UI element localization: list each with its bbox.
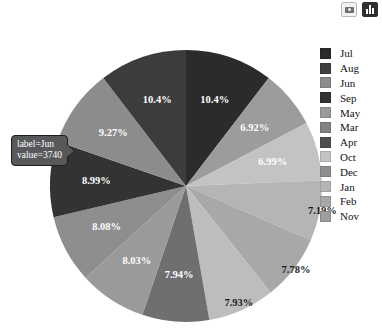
legend-item[interactable]: Apr	[320, 135, 380, 150]
legend-item[interactable]: Nov	[320, 209, 380, 224]
legend-label: Jan	[340, 181, 355, 193]
legend-label: Jun	[340, 77, 355, 89]
pie-slice-label: 9.27%	[99, 127, 128, 138]
chart-toolbar	[341, 2, 378, 17]
legend-label: Jul	[340, 47, 353, 59]
legend-label: Sep	[340, 92, 357, 104]
legend-item[interactable]: Jan	[320, 179, 380, 194]
pie-slice-group	[50, 50, 322, 322]
chart-legend: JulAugJunSepMayMarAprOctDecJanFebNov	[320, 46, 380, 224]
legend-label: Aug	[340, 62, 359, 74]
legend-swatch	[320, 181, 331, 192]
legend-item[interactable]: Mar	[320, 120, 380, 135]
legend-swatch	[320, 122, 331, 133]
legend-label: May	[340, 107, 360, 119]
bar-chart-glyph	[366, 5, 374, 14]
tooltip-value: value=3740	[17, 150, 62, 161]
pie-slice-label: 8.03%	[122, 255, 151, 266]
legend-item[interactable]: Oct	[320, 150, 380, 165]
pie-slice-label: 7.93%	[224, 297, 253, 308]
bar-chart-icon[interactable]	[362, 2, 378, 17]
pie-slice-label: 8.99%	[82, 175, 111, 186]
camera-icon[interactable]	[341, 2, 357, 17]
legend-swatch	[320, 77, 331, 88]
legend-item[interactable]: Feb	[320, 194, 380, 209]
legend-swatch	[320, 48, 331, 59]
legend-item[interactable]: Sep	[320, 90, 380, 105]
pie-slice-label: 6.92%	[240, 122, 269, 133]
pie-tooltip: label=Jun value=3740	[11, 135, 68, 166]
legend-swatch	[320, 63, 331, 74]
legend-swatch	[320, 166, 331, 177]
pie-slice-label: 6.99%	[258, 156, 287, 167]
legend-swatch	[320, 211, 331, 222]
legend-item[interactable]: Jul	[320, 46, 380, 61]
camera-glyph	[345, 7, 354, 13]
pie-slice-label: 10.4%	[143, 94, 172, 105]
legend-label: Oct	[340, 151, 356, 163]
legend-swatch	[320, 107, 331, 118]
tooltip-label: label=Jun	[17, 139, 62, 150]
legend-swatch	[320, 92, 331, 103]
legend-item[interactable]: May	[320, 105, 380, 120]
legend-swatch	[320, 196, 331, 207]
legend-label: Nov	[340, 210, 359, 222]
legend-label: Apr	[340, 136, 357, 148]
pie-chart: 10.4%6.92%6.99%7.19%7.78%7.93%7.94%8.03%…	[0, 28, 310, 328]
pie-svg[interactable]: 10.4%6.92%6.99%7.19%7.78%7.93%7.94%8.03%…	[50, 50, 322, 322]
legend-swatch	[320, 151, 331, 162]
legend-swatch	[320, 137, 331, 148]
pie-slice-label: 8.08%	[92, 221, 121, 232]
pie-slice-label: 7.94%	[165, 269, 194, 280]
tooltip-arrow	[67, 145, 74, 157]
pie-canvas: 10.4%6.92%6.99%7.19%7.78%7.93%7.94%8.03%…	[50, 50, 322, 322]
legend-label: Dec	[340, 166, 358, 178]
legend-label: Mar	[340, 121, 358, 133]
pie-slice-label: 7.78%	[282, 264, 311, 275]
chart-page: 10.4%6.92%6.99%7.19%7.78%7.93%7.94%8.03%…	[0, 0, 382, 329]
pie-slice-label: 10.4%	[200, 94, 229, 105]
legend-item[interactable]: Dec	[320, 164, 380, 179]
legend-item[interactable]: Jun	[320, 76, 380, 91]
legend-label: Feb	[340, 195, 357, 207]
legend-item[interactable]: Aug	[320, 61, 380, 76]
